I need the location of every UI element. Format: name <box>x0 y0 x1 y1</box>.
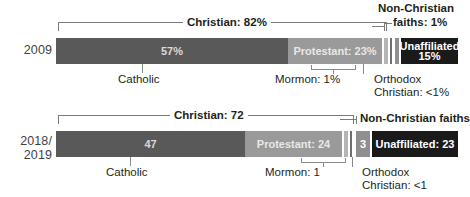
nonchristian-tick-2009 <box>384 23 385 31</box>
nonchristian-corner-bracket-2009 <box>384 23 392 30</box>
orthodox-label-line1-2018: Orthodox <box>362 166 409 179</box>
stacked-bar-2009: 57% Protestant: 23% Unaffiliated 15% <box>56 38 458 64</box>
mormon-label-2018: Mormon: 1 <box>265 166 320 179</box>
segment-catholic-value-2018: 47 <box>144 138 156 150</box>
segment-catholic-value-2009: 57% <box>161 45 183 57</box>
christian-bracket-label-2018: Christian: 72 <box>170 109 248 121</box>
year-label-2018-line1: 2018/ <box>2 135 52 149</box>
mormon-label-2009: Mormon: 1% <box>275 73 340 86</box>
nonchristian-leader-line-2009 <box>372 26 384 27</box>
year-label-2018-line2: 2019 <box>2 149 52 163</box>
segment-unaffiliated-value-2018: Unaffiliated: 23 <box>376 138 455 150</box>
mormon-bracket-stem-2018 <box>323 163 324 167</box>
segment-unaffiliated-2018[interactable]: Unaffiliated: 23 <box>372 131 458 157</box>
nonchristian-label-line1-2009: Non-Christian <box>378 2 454 15</box>
nonchristian-leader-line-2018 <box>340 119 356 120</box>
catholic-label-2018: Catholic <box>106 166 148 179</box>
orthodox-label-line2-2018: Christian: <1 <box>362 179 427 192</box>
orthodox-leader-2018 <box>352 157 353 167</box>
catholic-label-2009: Catholic <box>118 73 160 86</box>
nonchristian-tick-2018 <box>356 116 357 124</box>
nonchristian-label-2018: Non-Christian faiths <box>360 112 470 125</box>
stacked-bar-2018: 47 Protestant: 24 3 Unaffiliated: 23 <box>56 131 458 157</box>
segment-protestant-2018[interactable]: Protestant: 24 <box>245 131 342 157</box>
segment-nonchristian-2018[interactable]: 3 <box>356 131 370 157</box>
segment-catholic-2018[interactable]: 47 <box>56 131 245 157</box>
orthodox-leader-2009 <box>363 64 364 74</box>
year-label-2009: 2009 <box>2 44 52 58</box>
catholic-leader-2018 <box>130 157 131 166</box>
segment-protestant-value-2009: Protestant: 23% <box>293 45 376 57</box>
orthodox-label-line2-2009: Christian: <1% <box>374 86 449 99</box>
catholic-leader-2009 <box>142 64 143 73</box>
segment-unaffiliated-2009[interactable]: Unaffiliated 15% <box>401 38 458 64</box>
segment-catholic-2009[interactable]: 57% <box>56 38 288 64</box>
segment-nonchristian-value-2018: 3 <box>360 138 366 150</box>
segment-protestant-value-2018: Protestant: 24 <box>257 138 330 150</box>
year-label-2018: 2018/ 2019 <box>2 135 52 162</box>
segment-protestant-2009[interactable]: Protestant: 23% <box>288 38 382 64</box>
orthodox-label-line1-2009: Orthodox <box>374 73 421 86</box>
christian-bracket-label-2009: Christian: 82% <box>183 16 271 28</box>
segment-unaffiliated-value-2009: 15% <box>418 51 440 62</box>
nonchristian-label-line2-2009: faiths: 1% <box>393 16 447 29</box>
